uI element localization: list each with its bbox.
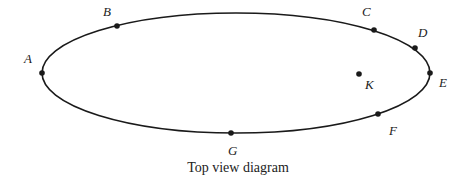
point-c-marker xyxy=(371,27,377,33)
diagram-caption: Top view diagram xyxy=(187,160,289,175)
point-e-marker xyxy=(427,70,433,76)
point-e-label: E xyxy=(438,75,447,90)
labels-layer: ABCDEFGK xyxy=(23,4,447,158)
point-c-label: C xyxy=(362,4,371,19)
point-a-label: A xyxy=(23,51,32,66)
point-b-label: B xyxy=(103,4,111,19)
point-k-marker xyxy=(356,71,362,77)
points-layer xyxy=(39,23,433,136)
top-view-diagram: ABCDEFGK Top view diagram xyxy=(0,0,469,180)
point-f-marker xyxy=(375,111,381,117)
point-d-label: D xyxy=(417,25,428,40)
point-g-marker xyxy=(228,130,234,136)
point-g-label: G xyxy=(228,143,238,158)
point-a-marker xyxy=(39,70,45,76)
point-k-label: K xyxy=(364,77,375,92)
point-b-marker xyxy=(114,23,120,29)
point-f-label: F xyxy=(388,123,398,138)
point-d-marker xyxy=(412,45,418,51)
